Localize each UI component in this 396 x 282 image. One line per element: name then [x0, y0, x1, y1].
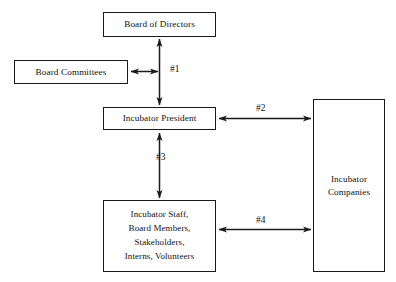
- node-incubator-staff-line-3: Stakeholders,: [134, 236, 184, 250]
- node-incubator-president-line-1: Incubator President: [123, 112, 197, 124]
- node-incubator-companies-line-2: Companies: [328, 186, 370, 198]
- node-incubator-staff: Incubator Staff, Board Members, Stakehol…: [103, 200, 216, 272]
- node-incubator-staff-line-1: Incubator Staff,: [131, 208, 189, 222]
- node-incubator-staff-line-4: Interns, Volunteers: [125, 250, 195, 264]
- edge-label-1: #1: [170, 64, 179, 74]
- node-board-of-directors-line-1: Board of Directors: [124, 18, 195, 30]
- node-board-committees: Board Committees: [14, 60, 128, 84]
- node-incubator-companies: Incubator Companies: [313, 99, 385, 272]
- node-incubator-staff-line-2: Board Members,: [129, 222, 191, 236]
- node-board-of-directors: Board of Directors: [103, 12, 216, 37]
- edge-label-3: #3: [156, 152, 165, 162]
- diagram-canvas: Board of Directors Board Committees Incu…: [0, 0, 396, 282]
- edge-label-2: #2: [256, 103, 265, 113]
- node-incubator-president: Incubator President: [103, 107, 216, 130]
- node-incubator-companies-line-1: Incubator: [331, 173, 367, 185]
- node-board-committees-line-1: Board Committees: [36, 66, 107, 78]
- edge-label-4: #4: [256, 215, 265, 225]
